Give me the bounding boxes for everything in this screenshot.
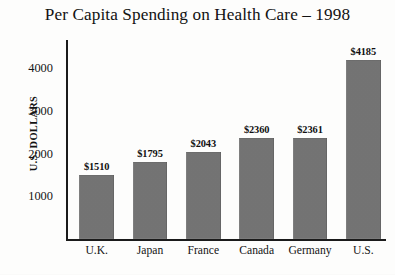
y-axis-title: U.S. DOLLARS: [28, 79, 39, 189]
x-axis-category-label: Germany: [288, 244, 331, 257]
y-axis-tick-4000: 4000: [13, 62, 53, 74]
bar-group[interactable]: $1510U.K.: [79, 40, 114, 239]
chart-title: Per Capita Spending on Health Care – 199…: [0, 5, 395, 25]
bar-group[interactable]: $2360Canada: [239, 40, 274, 239]
bar-value-label: $1510: [84, 161, 109, 172]
bar-value-label: $1795: [137, 148, 162, 159]
x-axis-category-label: U.S.: [353, 244, 374, 257]
bar-group[interactable]: $2361Germany: [293, 40, 328, 239]
bar-uk[interactable]: [79, 175, 114, 239]
bar-group[interactable]: $4185U.S.: [346, 40, 381, 239]
bar-canada[interactable]: [239, 138, 274, 239]
bar-group[interactable]: $2043France: [186, 40, 221, 239]
bar-japan[interactable]: [133, 162, 168, 239]
bar-chart-figure: Per Capita Spending on Health Care – 199…: [0, 0, 395, 275]
bar-group[interactable]: $1795Japan: [133, 40, 168, 239]
bar-value-label: $2043: [191, 138, 216, 149]
x-axis-category-label: Japan: [137, 244, 163, 257]
x-axis-category-label: U.K.: [85, 244, 108, 257]
y-axis-tick-3000: 3000: [13, 105, 53, 117]
y-axis-tick-2000: 2000: [13, 148, 53, 160]
x-axis-category-label: Canada: [239, 244, 274, 257]
bar-france[interactable]: [186, 152, 221, 239]
y-axis-tick-1000: 1000: [13, 190, 53, 202]
bar-value-label: $2361: [297, 124, 322, 135]
x-axis-category-label: France: [188, 244, 220, 257]
plot-area: 1000200030004000 $1510U.K.$1795Japan$204…: [66, 40, 386, 240]
bar-value-label: $4185: [351, 46, 376, 57]
bar-us[interactable]: [346, 60, 381, 239]
bars-layer: $1510U.K.$1795Japan$2043France$2360Canad…: [66, 40, 386, 239]
bar-germany[interactable]: [293, 138, 328, 239]
bar-value-label: $2360: [244, 124, 269, 135]
